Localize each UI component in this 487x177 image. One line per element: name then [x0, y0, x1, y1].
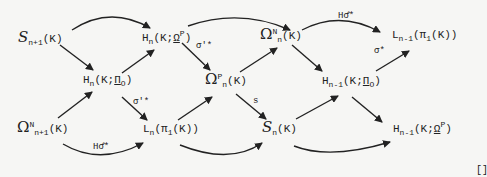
node-Omega-N-n-plus-1: ΩNn+1(K)	[17, 120, 68, 137]
label-sigma-prime-star: σ'*	[196, 42, 212, 51]
node-Omega-P-n: ΩPn(K)	[205, 72, 247, 89]
node-L-n-pi1: Ln(π1(K))	[143, 124, 199, 137]
end-of-proof-mark: []	[476, 165, 487, 176]
node-H-n-K-Omega-P: Hn(K;ΩP)	[142, 30, 191, 46]
arrow-OmegaNn1-to-HnPiO	[58, 92, 92, 118]
label-s: s	[253, 97, 258, 106]
label-sigma-prime-lower-star: σ'*	[133, 98, 149, 107]
label-H-sigma-hat-star-bottom: Hσ̂*	[93, 143, 109, 152]
arrow-Sn-to-Hn1OmegaP	[294, 142, 390, 152]
arrow-OmegaPn-to-Sn	[236, 94, 266, 119]
arrow-OmegaPn-to-OmegaNn	[240, 48, 277, 72]
node-L-n-minus-1-pi1: Ln-1(π1(K))	[392, 30, 457, 43]
node-Omega-N-n: ΩNn(K)	[260, 27, 302, 44]
arrow-HnPiO-to-HnOmegaP	[122, 50, 154, 73]
label-H-sigma-hat-star-top: Hσ̂*	[338, 12, 354, 21]
arrow-Ln-to-Sn	[180, 143, 262, 155]
node-H-n-minus-1-K-Pi-O: Hn-1(K;ΠO)	[322, 76, 381, 89]
arrow-OmegaNn-to-Hn1PiO	[292, 45, 322, 71]
node-H-n-minus-1-K-Omega-P: Hn-1(K;ΩP)	[393, 121, 452, 137]
arrow-Ln-to-OmegaPn	[178, 97, 212, 120]
arrow-Sn1-to-HnPiO	[60, 45, 93, 70]
node-H-n-K-Pi-O: Hn(K;ΠO)	[83, 75, 132, 88]
label-sigma-lower-star: σ*	[374, 47, 385, 56]
arrow-OmegaNn-to-Ln1	[302, 20, 380, 32]
node-S-n-plus-1: Sn+1(K)	[18, 30, 63, 47]
arrow-Sn1-to-HnOmegaP	[72, 17, 150, 30]
arrow-Hn1PiO-to-Hn1OmegaP	[352, 97, 382, 122]
arrow-Sn-to-Hn1PiO	[296, 96, 338, 119]
node-S-n: Sn(K)	[262, 120, 297, 137]
